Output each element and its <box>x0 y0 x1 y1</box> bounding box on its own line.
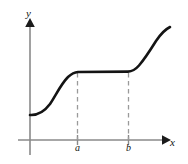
graph-canvas <box>0 0 188 164</box>
x-axis-label: x <box>170 137 175 148</box>
function-curve <box>30 27 170 115</box>
x-tick-label-b: b <box>126 143 131 153</box>
y-axis-arrowhead <box>25 18 35 27</box>
x-tick-label-a: a <box>75 143 80 153</box>
math-graph-figure: y x a b <box>0 0 188 164</box>
y-axis-label: y <box>26 8 31 19</box>
